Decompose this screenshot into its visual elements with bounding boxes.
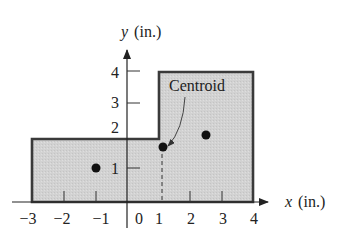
x-axis-title: x (in.) — [284, 193, 325, 211]
composite-centroid-dot — [159, 143, 168, 152]
y-tick-label: 3 — [111, 94, 119, 111]
y-tick-label: 2 — [111, 119, 119, 136]
y-tick-label: 4 — [111, 64, 119, 81]
centroid-diagram: −3 −2 −1 0 1 2 3 4 1 2 3 4 y (in.) x (in… — [0, 0, 343, 249]
x-tick-label: 4 — [250, 210, 258, 227]
x-tick-label: 2 — [187, 210, 195, 227]
x-tick-label: 3 — [219, 210, 227, 227]
right-rectangle-centroid-dot — [202, 131, 211, 140]
x-tick-label: 1 — [155, 210, 163, 227]
x-tick-label: −2 — [53, 210, 70, 227]
x-tick-label: 0 — [135, 210, 143, 227]
x-tick-labels: −3 −2 −1 0 1 2 3 4 — [19, 210, 258, 227]
centroid-label: Centroid — [169, 77, 225, 94]
x-tick-label: −3 — [19, 210, 36, 227]
y-axis-title: y (in.) — [119, 23, 161, 41]
y-tick-labels: 1 2 3 4 — [111, 64, 119, 177]
left-rectangle-centroid-dot — [92, 164, 101, 173]
x-tick-label: −1 — [92, 210, 109, 227]
y-tick-label: 1 — [111, 160, 119, 177]
